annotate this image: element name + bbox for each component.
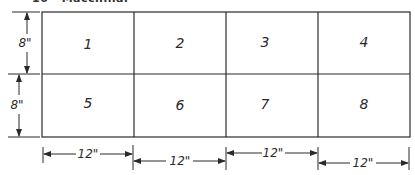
dim-label-left-2: 8" [10,98,23,112]
cell-label-7: 7 [261,96,270,112]
dim-label-bottom-1: 12" [78,147,99,161]
dim-label-bottom-4: 12" [353,156,374,170]
cell-label-6: 6 [176,97,185,113]
cell-label-8: 8 [360,96,369,112]
dim-label-bottom-3: 12" [263,146,284,160]
cell-label-3: 3 [261,34,270,50]
dim-label-bottom-2: 12" [170,154,191,168]
cell-label-5: 5 [84,95,93,111]
panel-layout-diagram: 1 2 3 4 5 6 7 8 8" 8" 1 [0,0,415,175]
left-dimensions [8,12,40,137]
cell-label-4: 4 [360,34,369,50]
panel-grid [42,12,410,137]
cell-label-2: 2 [176,35,185,51]
dim-label-left-1: 8" [18,36,31,50]
cell-label-1: 1 [84,36,93,52]
